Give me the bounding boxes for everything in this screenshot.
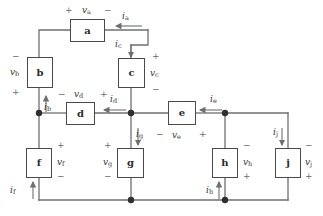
- polarity-plus-f-top: +: [57, 141, 65, 150]
- polarity-minus-a-right: −: [104, 6, 112, 15]
- wire-corner-down-to-c: [131, 30, 148, 58]
- circuit-element-a[interactable]: a: [70, 19, 105, 42]
- voltage-label-f: vf: [57, 158, 65, 168]
- polarity-minus-h-top: −: [243, 141, 251, 150]
- voltage-subscript: e: [177, 133, 181, 141]
- current-label-g: ig: [136, 130, 143, 140]
- polarity-minus-b-top: −: [12, 52, 20, 61]
- circuit-element-f[interactable]: f: [26, 148, 52, 178]
- circuit-diagram-canvas: abcdefghjvavbvcvdvevfvgvhvjiaibicidieifi…: [0, 0, 323, 216]
- polarity-minus-j-top: −: [305, 141, 313, 150]
- circuit-element-g[interactable]: g: [117, 148, 144, 178]
- voltage-subscript: g: [108, 160, 112, 168]
- circuit-element-label: h: [221, 158, 228, 168]
- voltage-label-c: vc: [150, 69, 159, 79]
- polarity-minus-f-bottom: −: [57, 172, 65, 181]
- polarity-plus-d-right: +: [100, 90, 108, 99]
- wire-b-top-to-a-left: [39, 30, 70, 57]
- circuit-element-label: c: [128, 68, 134, 78]
- current-label-c: ic: [115, 40, 122, 50]
- circuit-element-label: a: [84, 26, 90, 36]
- circuit-element-c[interactable]: c: [118, 58, 145, 88]
- current-subscript: f: [13, 188, 15, 196]
- current-subscript: j: [276, 130, 278, 138]
- circuit-element-b[interactable]: b: [27, 57, 53, 88]
- voltage-subscript: h: [248, 160, 252, 168]
- circuit-element-label: d: [77, 109, 84, 119]
- voltage-subscript: f: [62, 160, 64, 168]
- voltage-label-h: vh: [243, 158, 252, 168]
- voltage-label-a: va: [82, 6, 91, 16]
- current-label-f: if: [10, 186, 15, 196]
- current-subscript: g: [139, 132, 143, 140]
- node-left-mid: [36, 110, 42, 116]
- current-subscript: b: [47, 105, 51, 113]
- voltage-label-d: vd: [74, 90, 83, 100]
- voltage-subscript: d: [79, 92, 83, 100]
- polarity-minus-d-left: −: [58, 90, 66, 99]
- node-center-mid: [128, 110, 134, 116]
- circuit-element-label: f: [37, 158, 41, 168]
- polarity-plus-e-right: +: [199, 130, 207, 139]
- node-right-bot: [222, 197, 228, 203]
- circuit-element-h[interactable]: h: [212, 148, 238, 178]
- voltage-label-g: vg: [103, 158, 112, 168]
- current-label-j: ij: [273, 128, 278, 138]
- current-subscript: a: [125, 14, 129, 22]
- circuit-element-d[interactable]: d: [66, 102, 95, 125]
- current-subscript: d: [113, 97, 117, 105]
- polarity-minus-e-left: −: [156, 130, 164, 139]
- current-subscript: h: [209, 188, 213, 196]
- circuit-element-label: g: [127, 158, 134, 168]
- voltage-label-j: vj: [305, 158, 312, 168]
- current-label-b: ib: [44, 103, 51, 113]
- polarity-plus-j-bottom: +: [305, 172, 313, 181]
- voltage-subscript: a: [87, 8, 91, 16]
- polarity-minus-g-bottom: −: [104, 172, 112, 181]
- current-label-d: id: [110, 95, 117, 105]
- node-center-bot: [128, 197, 134, 203]
- voltage-label-b: vb: [10, 68, 19, 78]
- circuit-element-e[interactable]: e: [168, 101, 196, 125]
- circuit-element-label: j: [286, 158, 290, 168]
- voltage-subscript: j: [310, 160, 312, 168]
- current-label-h: ih: [206, 186, 213, 196]
- polarity-plus-h-bottom: +: [243, 172, 251, 181]
- current-label-e: ie: [210, 95, 217, 105]
- circuit-element-label: b: [37, 68, 44, 78]
- circuit-element-j[interactable]: j: [275, 148, 301, 178]
- current-subscript: c: [118, 42, 122, 50]
- current-label-a: ia: [122, 12, 129, 22]
- voltage-label-e: ve: [172, 131, 181, 141]
- voltage-subscript: c: [155, 71, 159, 79]
- polarity-plus-c-top: +: [152, 52, 160, 61]
- polarity-plus-g-top: +: [104, 141, 112, 150]
- circuit-element-label: e: [179, 108, 185, 118]
- polarity-minus-c-bottom: −: [152, 85, 160, 94]
- current-subscript: e: [213, 97, 217, 105]
- node-right-mid: [222, 110, 228, 116]
- polarity-plus-b-bottom: +: [12, 88, 20, 97]
- polarity-plus-a-left: +: [65, 6, 73, 15]
- voltage-subscript: b: [15, 70, 19, 78]
